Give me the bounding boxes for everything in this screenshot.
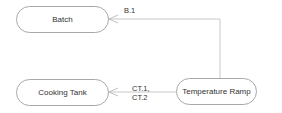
node-batch[interactable]: Batch	[16, 6, 109, 33]
edge-label-ct1: CT.1,	[132, 84, 150, 93]
node-cooking-tank[interactable]: Cooking Tank	[16, 79, 109, 106]
node-label: Cooking Tank	[38, 88, 86, 97]
node-label: Temperature Ramp	[182, 87, 250, 96]
node-label: Batch	[52, 15, 72, 24]
node-temperature-ramp[interactable]: Temperature Ramp	[176, 78, 257, 105]
edge-ramp-to-batch	[109, 19, 220, 78]
edge-label-b1: B.1	[124, 6, 135, 15]
edge-label-ct2: CT.2	[132, 93, 147, 102]
